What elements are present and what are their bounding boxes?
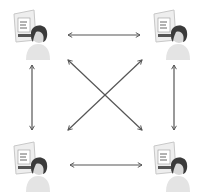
node-user-top-right: User 2 — [152, 8, 192, 60]
person-with-document-icon — [152, 8, 192, 60]
person-with-document-icon — [12, 8, 52, 60]
person-with-document-icon — [152, 140, 192, 192]
node-user-top-left: User 1 — [12, 8, 52, 60]
person-with-document-icon — [12, 140, 52, 192]
node-user-bottom-right: User 4 — [152, 140, 192, 192]
node-user-bottom-left: User 3 — [12, 140, 52, 192]
